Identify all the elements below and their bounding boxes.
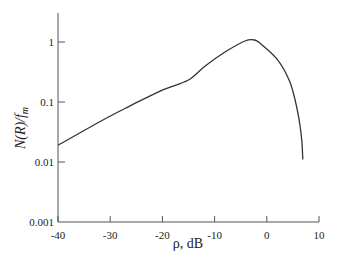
x-tick-label: -30 bbox=[103, 229, 118, 241]
y-tick-label: 1 bbox=[49, 36, 55, 48]
axes bbox=[58, 13, 319, 222]
y-axis-title-subscript: m bbox=[19, 107, 30, 114]
x-tick-label: -20 bbox=[155, 229, 170, 241]
y-axis-ticks: 10.10.010.001 bbox=[29, 36, 65, 228]
x-tick-label: -40 bbox=[51, 229, 66, 241]
y-axis-title-main: N(R)/f bbox=[13, 112, 29, 150]
data-line bbox=[58, 39, 303, 159]
y-tick-label: 0.001 bbox=[29, 216, 54, 228]
x-tick-label: -10 bbox=[207, 229, 222, 241]
y-tick-label: 0.01 bbox=[35, 156, 54, 168]
x-tick-label: 10 bbox=[314, 229, 326, 241]
x-axis-title: ρ, dB bbox=[173, 236, 203, 251]
y-tick-label: 0.1 bbox=[40, 96, 54, 108]
y-axis-title: N(R)/fm bbox=[13, 107, 30, 150]
chart: -40-30-20-10010 10.10.010.001 ρ, dB N(R)… bbox=[0, 0, 339, 264]
x-tick-label: 0 bbox=[264, 229, 270, 241]
